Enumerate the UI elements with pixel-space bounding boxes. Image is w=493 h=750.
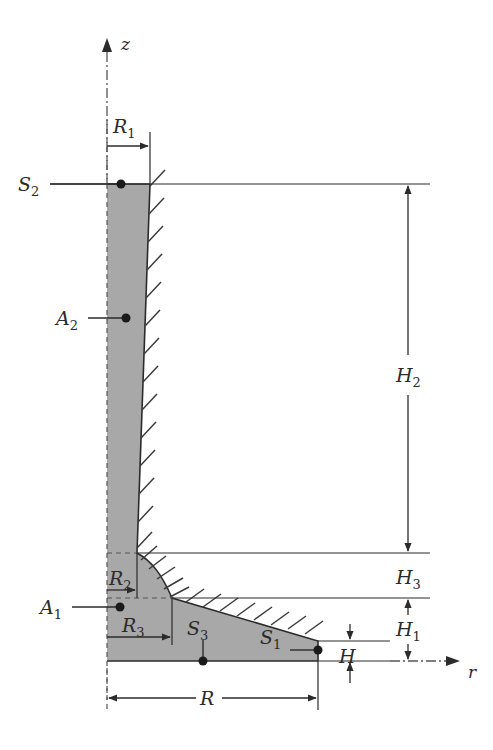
A2-label: A2	[54, 307, 78, 333]
hatch-mark	[220, 598, 238, 611]
hatch-mark	[140, 450, 155, 466]
dimension-R1: R1	[107, 115, 150, 184]
z-axis-arrowhead	[102, 38, 112, 52]
S2-point-dot	[117, 180, 126, 189]
z-axis-group: z	[102, 34, 131, 184]
figure-root: z r R1 R2 R3	[0, 0, 493, 750]
r-axis-label: r	[468, 662, 477, 682]
hatch-mark	[149, 556, 166, 569]
dimension-R: R	[107, 661, 318, 710]
R-label: R	[199, 687, 214, 709]
hatch-mark	[271, 612, 289, 625]
S1-point-dot	[314, 646, 323, 655]
z-axis-label: z	[120, 34, 131, 54]
H1-label: H1	[395, 618, 421, 644]
solid-body-fill	[107, 184, 318, 661]
hatch-mark	[186, 589, 204, 602]
hatch-mark	[144, 338, 159, 354]
hatch-mark	[147, 254, 162, 270]
A1-point-dot	[116, 603, 125, 612]
hatch-mark	[149, 198, 164, 214]
figure-caption	[4, 737, 489, 750]
hatch-mark	[145, 310, 160, 326]
H2-label: H2	[395, 364, 421, 390]
dimension-H2: H2	[395, 186, 421, 551]
hatch-mark	[288, 616, 306, 629]
H-label: H	[338, 645, 356, 667]
H3-label: H3	[395, 566, 421, 592]
hatch-mark	[157, 567, 175, 579]
r-axis-group: r	[390, 656, 477, 682]
hatch-mark	[141, 422, 156, 438]
hatch-mark	[143, 366, 158, 382]
solid-body-group	[107, 184, 318, 661]
hatch-mark	[164, 578, 183, 589]
R1-label: R1	[112, 115, 136, 141]
r-axis-arrowhead	[446, 656, 460, 666]
hatch-mark	[237, 603, 255, 616]
cross-section-diagram: z r R1 R2 R3	[0, 0, 493, 750]
hatch-mark	[146, 282, 161, 298]
dimension-H1: H1	[395, 600, 421, 659]
hatch-mark	[138, 506, 153, 522]
hatch-mark	[254, 607, 272, 620]
hatch-mark	[142, 394, 157, 410]
hatch-mark	[148, 226, 163, 242]
hatch-mark	[137, 532, 152, 548]
dimension-H: H	[338, 624, 356, 683]
A2-point-dot	[122, 314, 131, 323]
S3-point-dot	[199, 657, 208, 666]
A1-label: A1	[38, 596, 62, 622]
S2-label: S2	[18, 173, 39, 199]
hatch-mark	[170, 587, 189, 597]
hatch-mark	[139, 478, 154, 494]
hatch-marks-group	[137, 170, 323, 634]
dimension-H3: H3	[395, 566, 421, 592]
hatch-mark	[305, 621, 323, 634]
hatch-mark	[203, 594, 221, 607]
